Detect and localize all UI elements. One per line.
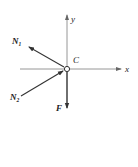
force-n2-arrow [21, 71, 63, 96]
point-c [64, 66, 69, 71]
y-axis-label: y [70, 14, 75, 24]
force-n2-label: N2 [9, 92, 20, 103]
point-c-label: C [73, 55, 80, 65]
x-axis-label: x [124, 64, 129, 74]
force-f-label: F [55, 103, 62, 113]
force-n1-label: N1 [11, 36, 22, 47]
force-n1-arrow [29, 47, 64, 67]
free-body-diagram: y x C N1 N2 F [0, 0, 138, 167]
